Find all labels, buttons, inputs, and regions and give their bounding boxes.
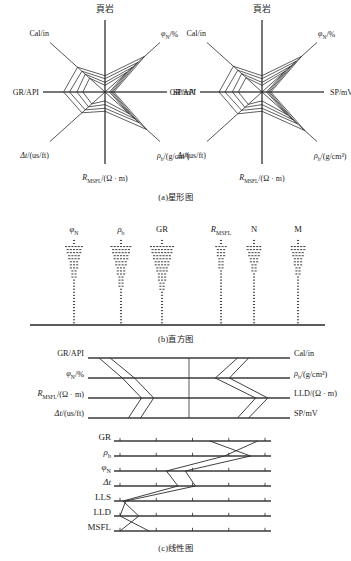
- pc-axis-label: ρb: [103, 447, 111, 459]
- histogram-column: GR: [150, 224, 174, 322]
- hp-right-line: [215, 358, 255, 418]
- histogram-column: M: [291, 224, 306, 322]
- star-label-NE: φN/%: [318, 29, 336, 40]
- histogram-column-label: M: [294, 224, 302, 234]
- hp-right-label: Cal/in: [294, 349, 314, 358]
- pc-axis-label: MSFL: [87, 522, 111, 532]
- star-title: 頁岩: [253, 3, 271, 14]
- panel-star-glyph: 頁岩φN/%SP/mVρb/(g/cm³)RMSFL/(Ω · m)Δt/(us…: [0, 0, 351, 205]
- star-label-SW: Δt/(us/ft): [176, 151, 206, 160]
- star-label-S: RMSFL/(Ω · m): [238, 173, 285, 184]
- histogram-column: ρb: [111, 224, 132, 322]
- star-label-NW: Cal/in: [186, 29, 206, 38]
- star-label-SE: ρb/(g/cm³): [313, 151, 347, 162]
- histogram-column-label: RMSFL: [210, 224, 232, 236]
- histogram-svg: φNρbGRRMSFLNM: [0, 205, 351, 350]
- hp-right-label: SP/mV: [294, 409, 318, 418]
- hp-right-label: ρb/(g/cm³): [293, 369, 328, 380]
- histogram-column-label: ρb: [116, 224, 124, 236]
- horizontal-parallel-content: GR/APIφN/%RMSFL/(Ω · m)Δt/(us/ft)Cal/inρ…: [36, 349, 337, 419]
- star-label-SW: Δt/(us/ft): [19, 151, 49, 160]
- hp-right-label: LLD/(Ω · m): [294, 389, 337, 398]
- horizontal-parallel-svg: GR/APIφN/%RMSFL/(Ω · m)Δt/(us/ft)Cal/inρ…: [0, 350, 351, 436]
- star-chart-right: 頁岩φN/%SP/mVρb/(g/cm³)RMSFL/(Ω · m)Δt/(us…: [170, 3, 351, 184]
- star-label-E: SP/mV: [330, 88, 351, 97]
- histogram-column-label: GR: [156, 224, 168, 234]
- pc-axis-label: LLS: [95, 492, 111, 502]
- pc-axis-label: GR: [98, 432, 111, 442]
- star-label-NE: φN/%: [161, 29, 179, 40]
- star-axis-5: [207, 92, 262, 142]
- star-label-S: RMSFL/(Ω · m): [81, 173, 128, 184]
- histogram-columns: φNρbGRRMSFLNM: [30, 224, 325, 325]
- parallel-coordinates-content: GRρbφNΔtLLSLLDMSFL: [87, 432, 271, 532]
- histogram-column-label: N: [251, 224, 258, 234]
- hp-left-line: [99, 358, 141, 418]
- histogram-column: φN: [65, 224, 83, 322]
- star-glyph-svg: 頁岩φN/%SP/mVρb/(g/cm³)RMSFL/(Ω · m)Δt/(us…: [0, 0, 351, 205]
- hp-left-label: RMSFL/(Ω · m): [36, 389, 84, 400]
- star-label-W: GR/API: [170, 88, 197, 97]
- star-axis-7: [207, 42, 262, 92]
- pc-axis-label: Δt: [102, 477, 111, 487]
- hp-left-label: GR/API: [57, 349, 84, 358]
- panel-histogram: φNρbGRRMSFLNM (b)直方图: [0, 205, 351, 350]
- histogram-column-label: φN: [70, 224, 80, 236]
- panel-b-caption: (b)直方图: [0, 332, 351, 344]
- histogram-column: N: [247, 224, 262, 322]
- panel-d-caption: (c)线性图: [0, 541, 351, 553]
- pc-axis-label: φN: [102, 462, 112, 474]
- star-title: 頁岩: [96, 3, 114, 14]
- star-axis-5: [50, 92, 105, 142]
- hp-left-label: φN/%: [66, 369, 84, 380]
- hp-left-label: Δt/(us/ft): [54, 409, 85, 418]
- pc-axis-label: LLD: [94, 507, 112, 517]
- panel-horizontal-parallel: GR/APIφN/%RMSFL/(Ω · m)Δt/(us/ft)Cal/inρ…: [0, 350, 351, 436]
- panel-a-caption: (a)星形图: [0, 190, 351, 202]
- histogram-column: RMSFL: [210, 224, 232, 322]
- star-axis-3: [262, 92, 317, 142]
- star-label-W: GR/API: [13, 88, 40, 97]
- star-label-NW: Cal/in: [29, 29, 49, 38]
- panel-parallel-coordinates: GRρbφNΔtLLSLLDMSFL (c)线性图: [0, 425, 351, 561]
